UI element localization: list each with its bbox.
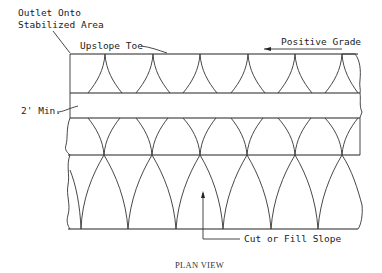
min-width-label: 2' Min.	[21, 105, 61, 116]
leaders	[53, 31, 342, 239]
positive-grade-label: Positive Grade	[281, 36, 361, 47]
upper-slope-cusps	[88, 54, 358, 93]
middle-slope-cusps	[88, 118, 358, 155]
upslope-toe-label: Upslope Toe	[80, 40, 143, 51]
outlet-leader	[53, 31, 70, 53]
left-edge	[65, 54, 81, 229]
cut-fill-arrowhead	[201, 191, 205, 198]
outlet-label-line2: Stabilized Area	[18, 19, 104, 30]
plan-view-diagram: Outlet Onto Stabilized Area Upslope Toe …	[0, 0, 382, 273]
bottom-slope-arches	[81, 155, 342, 229]
upslope-toe-leader	[141, 46, 167, 53]
cut-fill-label: Cut or Fill Slope	[244, 233, 342, 244]
plan-view-caption: PLAN VIEW	[175, 260, 224, 270]
positive-grade-arrowhead	[264, 47, 271, 51]
outlet-label-line1: Outlet Onto	[18, 7, 81, 18]
boundary-lines	[68, 54, 360, 229]
